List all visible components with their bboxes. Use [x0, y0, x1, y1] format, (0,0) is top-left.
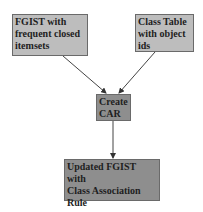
node-label-line: with object	[138, 28, 191, 40]
node-label-line: itemsets	[15, 40, 85, 52]
node-label-line: CAR	[99, 108, 128, 120]
node-create-car: Create CAR	[96, 94, 131, 121]
node-fgist-frequent-closed-itemsets: FGIST with frequent closed itemsets	[12, 14, 88, 56]
node-label-line: Updated FGIST with	[67, 161, 157, 185]
edge-fgist-to-create-car	[63, 56, 106, 93]
edge-class-table-to-create-car	[119, 52, 155, 93]
node-label-line: Class Association	[67, 185, 157, 197]
node-label-line: FGIST with	[15, 16, 85, 28]
node-label-line: Rule	[67, 197, 157, 209]
node-label-line: ids	[138, 40, 191, 52]
node-class-table-object-ids: Class Table with object ids	[135, 14, 194, 52]
flow-diagram: FGIST with frequent closed itemsets Clas…	[0, 0, 203, 212]
node-label-line: Create	[99, 96, 128, 108]
node-label-line: Class Table	[138, 16, 191, 28]
node-label-line: frequent closed	[15, 28, 85, 40]
node-updated-fgist-car: Updated FGIST with Class Association Rul…	[64, 159, 160, 201]
